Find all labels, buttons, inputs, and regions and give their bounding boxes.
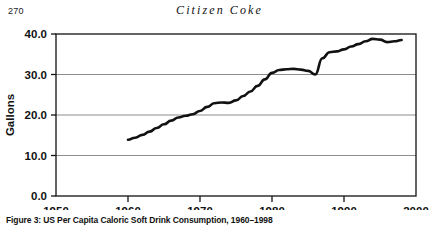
x-axis-ticks	[128, 196, 344, 202]
x-tick-label: 1960	[115, 205, 141, 210]
y-tick-label: 0.0	[31, 190, 47, 202]
y-axis-tick-labels: 0.010.020.030.040.0	[25, 28, 47, 202]
x-tick-label: 1950	[43, 205, 69, 210]
x-tick-label: 2000	[403, 205, 429, 210]
chart-figure: 195019601970198019902000 0.010.020.030.0…	[0, 22, 439, 210]
y-tick-label: 10.0	[25, 150, 47, 162]
y-axis-ticks	[51, 34, 56, 196]
y-tick-label: 30.0	[25, 69, 47, 81]
y-axis-title-text: Gallons	[4, 94, 16, 136]
x-tick-label: 1970	[187, 205, 213, 210]
x-tick-label: 1980	[259, 205, 285, 210]
x-tick-label: 1990	[331, 205, 357, 210]
y-axis-title: Gallons	[4, 94, 16, 136]
y-tick-label: 20.0	[25, 109, 47, 121]
line-chart: 195019601970198019902000 0.010.020.030.0…	[0, 22, 439, 210]
gridlines	[56, 75, 416, 156]
figure-page: 270 Citizen Coke 19501960197019801990200…	[0, 0, 439, 235]
y-tick-label: 40.0	[25, 28, 47, 40]
figure-caption: Figure 3: US Per Capita Caloric Soft Dri…	[6, 215, 273, 225]
data-series	[128, 39, 402, 140]
x-axis-tick-labels: 195019601970198019902000	[43, 205, 429, 210]
running-head: Citizen Coke	[0, 3, 439, 18]
series-line	[128, 39, 402, 140]
